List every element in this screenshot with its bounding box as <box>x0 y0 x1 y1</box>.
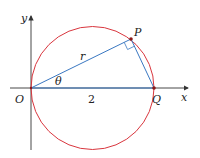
y-axis-label: y <box>20 12 28 25</box>
point-o <box>30 87 32 89</box>
point-p <box>129 37 133 41</box>
point-q-label: Q <box>152 93 161 106</box>
x-axis-label: x <box>181 91 188 104</box>
angle-label: θ <box>55 75 62 88</box>
polar-circle-diagram: y x O P Q r θ 2 <box>0 0 200 158</box>
origin-label: O <box>15 93 24 106</box>
radius-label: r <box>80 50 86 63</box>
segment-op <box>31 39 131 88</box>
diameter-length-label: 2 <box>88 93 95 106</box>
point-p-label: P <box>133 26 142 39</box>
point-q <box>152 86 156 90</box>
